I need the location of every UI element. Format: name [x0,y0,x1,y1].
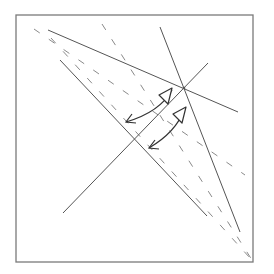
geometry-diagram [0,0,274,274]
intersection-point [183,87,186,90]
solid-line-line-b [48,30,238,112]
dashed-lines [34,24,252,260]
dashed-line-dash-1 [34,29,245,175]
solid-lines [48,27,240,232]
arrow-upper-icon [126,88,172,123]
diagram-canvas [0,0,274,274]
arrow-lower-icon [149,107,186,149]
solid-line-line-d [63,63,208,213]
dashed-line-dash-3 [102,24,252,260]
